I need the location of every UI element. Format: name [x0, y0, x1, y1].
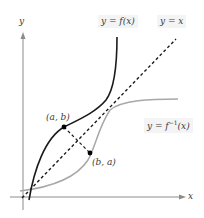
y-axis: [21, 32, 26, 210]
inverse-function-diagram: [0, 0, 204, 218]
function-curve: [29, 37, 117, 200]
inverse-function-label: y = f−1(x): [144, 118, 193, 133]
inverse-label-suffix: (x): [178, 121, 190, 131]
reflection-segment: [64, 127, 90, 153]
inverse-function-curve: [20, 99, 178, 191]
x-axis: [10, 195, 186, 200]
function-label: y = f(x): [98, 15, 138, 28]
x-axis-label: x: [188, 192, 193, 201]
inverse-label-superscript: −1: [169, 119, 178, 126]
point-a-b-label: (a, b): [46, 113, 70, 122]
point-b-a: [88, 151, 93, 156]
y-axis-arrow-icon: [21, 32, 26, 39]
point-b-a-label: (b, a): [92, 158, 116, 167]
identity-label: y = x: [157, 15, 186, 28]
inverse-label-prefix: y = f: [147, 121, 169, 131]
x-axis-arrow-icon: [179, 195, 186, 200]
point-a-b: [62, 125, 67, 130]
y-axis-label: y: [19, 17, 24, 26]
